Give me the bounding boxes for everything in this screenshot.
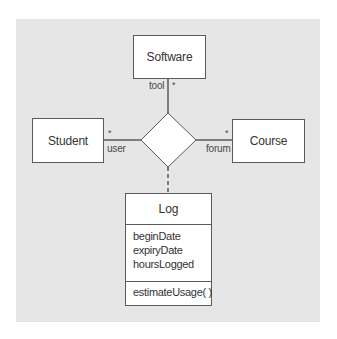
attribute: beginDate — [133, 229, 211, 243]
attribute: expiryDate — [133, 243, 211, 257]
class-software: Software — [133, 35, 206, 79]
operation: estimateUsage( ) — [133, 286, 211, 298]
association-diamond — [141, 113, 196, 167]
class-name: Software — [147, 50, 193, 64]
role-label-forum: forum — [206, 143, 231, 154]
attribute: hoursLogged — [133, 257, 211, 271]
log-attributes: beginDate expiryDate hoursLogged — [126, 225, 211, 282]
class-name: Course — [250, 134, 287, 148]
multiplicity-tool: * — [172, 80, 176, 90]
class-student: Student — [32, 118, 104, 163]
log-class-name: Log — [126, 194, 211, 225]
class-name: Student — [48, 134, 88, 148]
class-course: Course — [232, 119, 305, 163]
role-label-user: user — [107, 143, 126, 154]
role-label-tool: tool — [149, 80, 164, 91]
association-class-log: Log beginDate expiryDate hoursLogged est… — [125, 193, 212, 306]
multiplicity-user: * — [108, 128, 112, 138]
log-operations: estimateUsage( ) — [126, 282, 211, 298]
multiplicity-forum: * — [225, 128, 229, 138]
